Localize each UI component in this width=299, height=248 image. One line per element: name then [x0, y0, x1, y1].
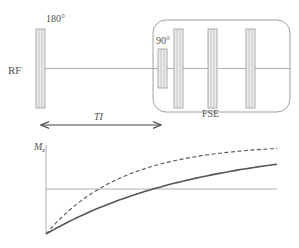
inversion-time-label: TI [94, 111, 104, 122]
refocusing-pulse [174, 29, 183, 108]
rf-label: RF [8, 64, 21, 76]
fse-label: FSE [202, 108, 219, 119]
mz-axis-label: Mz [33, 141, 45, 154]
inversion-pulse-label: 180° [46, 13, 65, 24]
refocusing-pulse [208, 29, 217, 108]
pulse-sequence-diagram: RF 180° 90° FSE TI Mz [0, 0, 299, 248]
fse-block [153, 20, 290, 112]
recovery-curve-fast [46, 148, 277, 234]
mz-subscript: z [41, 146, 45, 154]
inversion-pulse [36, 29, 45, 108]
recovery-curve-slow [46, 164, 277, 234]
excitation-pulse [158, 49, 167, 88]
refocusing-pulse [246, 29, 255, 108]
excitation-pulse-label: 90° [156, 35, 170, 46]
